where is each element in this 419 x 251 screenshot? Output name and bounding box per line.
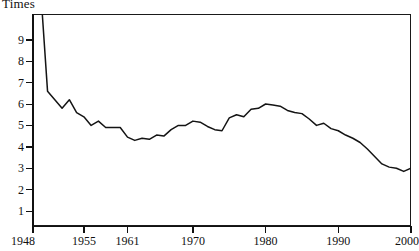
y-axis-line (32, 14, 34, 227)
x-tick-1961 (127, 226, 128, 233)
y-tick-label-6: 6 (0, 98, 24, 110)
y-tick-label-3: 3 (0, 162, 24, 174)
chart-container: Times 987654321 194819551961197019801990… (0, 0, 419, 251)
x-tick-label-1990: 1990 (326, 235, 350, 248)
y-tick-label-1: 1 (0, 205, 24, 217)
y-tick-label-7: 7 (0, 77, 24, 89)
y-tick-9 (26, 39, 34, 40)
y-tick-4 (26, 146, 34, 147)
y-tick-label-2: 2 (0, 184, 24, 196)
y-tick-label-5: 5 (0, 119, 24, 131)
plot-frame (33, 14, 411, 226)
y-axis-title: Times (2, 0, 35, 10)
y-tick-label-9: 9 (0, 34, 24, 46)
x-tick-2000 (410, 226, 411, 233)
x-tick-1990 (338, 226, 339, 233)
x-tick-label-1955: 1955 (72, 235, 96, 248)
x-tick-1948 (32, 226, 33, 233)
y-tick-1 (26, 211, 34, 212)
x-tick-label-1948: 1948 (11, 235, 35, 248)
x-tick-1955 (83, 226, 84, 233)
x-tick-label-2000: 2000 (395, 235, 419, 248)
y-tick-label-8: 8 (0, 55, 24, 67)
y-tick-7 (26, 82, 34, 83)
y-tick-2 (26, 189, 34, 190)
x-tick-1980 (265, 226, 266, 233)
x-tick-label-1970: 1970 (181, 235, 205, 248)
y-tick-5 (26, 125, 34, 126)
y-tick-8 (26, 61, 34, 62)
y-tick-3 (26, 168, 34, 169)
x-axis-line (32, 226, 412, 228)
x-tick-label-1980: 1980 (254, 235, 278, 248)
y-tick-label-4: 4 (0, 141, 24, 153)
y-tick-6 (26, 104, 34, 105)
x-tick-1970 (192, 226, 193, 233)
x-tick-label-1961: 1961 (116, 235, 140, 248)
